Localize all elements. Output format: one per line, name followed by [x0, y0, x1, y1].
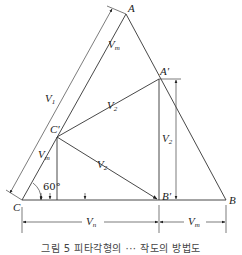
label-angle-60: 60°	[43, 181, 61, 192]
label-V2-upper: V2	[107, 99, 118, 113]
figure-caption: 그림 5 피타각형의 ··· 작도의 방법도	[0, 240, 242, 255]
inner-triangle	[57, 79, 159, 200]
label-V1: V1	[45, 92, 55, 106]
point-C: C	[13, 201, 21, 213]
main-triangle	[22, 14, 226, 200]
label-V2-lower: V2	[97, 158, 108, 172]
point-B-prime: B′	[162, 190, 172, 202]
point-B: B	[229, 194, 236, 206]
point-A: A	[127, 2, 135, 14]
point-A-prime: A′	[159, 65, 170, 77]
label-Vm-left: Vm	[38, 148, 50, 162]
label-V2-vertical: V2	[162, 132, 173, 146]
base-arrows	[41, 193, 85, 199]
angle-arc-60	[33, 183, 41, 200]
point-C-prime: C′	[50, 123, 60, 135]
label-Vm-top: Vm	[108, 38, 120, 52]
